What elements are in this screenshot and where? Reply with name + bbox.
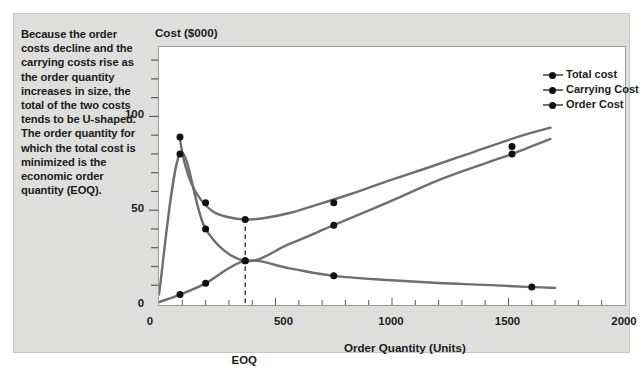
legend-label-carrying-cost: Carrying Cost xyxy=(566,83,639,95)
data-point xyxy=(330,199,337,206)
data-point xyxy=(202,199,209,206)
x-axis-title: Order Quantity (Units) xyxy=(344,341,466,354)
x-tick-label-0: 0 xyxy=(127,315,173,327)
legend-item-order-cost: Order Cost xyxy=(543,98,623,110)
data-point xyxy=(330,272,337,279)
legend-label-total-cost: Total cost xyxy=(566,68,617,80)
x-tick-label-1000: 1000 xyxy=(368,315,414,327)
legend-marker-order-cost xyxy=(543,101,563,109)
y-tick-label-100: 100 xyxy=(110,108,144,120)
x-tick-label-2000: 2000 xyxy=(601,315,643,327)
legend-marker-carrying-cost xyxy=(543,86,563,94)
series-markers-total-cost xyxy=(176,134,515,224)
data-point xyxy=(202,225,209,232)
data-point xyxy=(242,216,249,223)
data-point xyxy=(508,150,515,157)
x-tick-label-500: 500 xyxy=(261,315,307,327)
data-point xyxy=(330,222,337,229)
series-line-order-cost xyxy=(159,260,555,302)
data-point xyxy=(508,143,515,150)
series-line-total-cost xyxy=(180,128,551,220)
series-line-carrying-cost xyxy=(159,139,550,295)
eoq-label: EOQ xyxy=(224,354,264,366)
y-axis-title: Cost ($000) xyxy=(155,26,218,39)
y-tick-label-50: 50 xyxy=(110,202,144,214)
x-tick-label-1500: 1500 xyxy=(485,315,531,327)
data-point xyxy=(528,284,535,291)
legend-label-order-cost: Order Cost xyxy=(566,98,623,110)
y-tick-label-0: 0 xyxy=(110,297,144,309)
data-point xyxy=(176,134,183,141)
data-point xyxy=(202,280,209,287)
legend-item-carrying-cost: Carrying Cost xyxy=(543,83,639,95)
figure-panel: Because the order costs decline and the … xyxy=(13,13,630,353)
y-axis-ticks xyxy=(147,46,159,306)
data-point xyxy=(176,150,183,157)
legend-marker-total-cost xyxy=(543,71,563,79)
data-point xyxy=(242,257,249,264)
data-point xyxy=(176,291,183,298)
series-markers-carrying-cost xyxy=(176,150,515,264)
legend-item-total-cost: Total cost xyxy=(543,68,617,80)
